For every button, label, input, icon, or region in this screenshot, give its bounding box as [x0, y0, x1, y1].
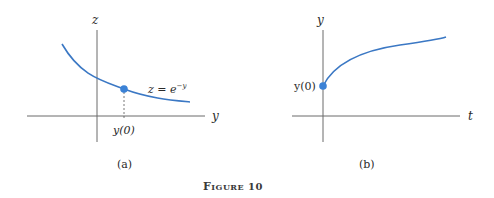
- panel-a-z-axis-label: z: [91, 13, 99, 27]
- panel-a-label: (a): [117, 158, 132, 171]
- panel-b-point-label: y(0): [293, 80, 316, 93]
- figure-canvas: z y z = e−y y(0) (a) y t y(0) (b) FIGURE…: [0, 0, 494, 198]
- panel-a-curve-label: z = e−y: [147, 82, 187, 96]
- panel-b-label: (b): [359, 158, 375, 171]
- panel-b-point: [319, 82, 327, 90]
- panel-b: y t y(0) (b): [292, 13, 473, 171]
- panel-a-point: [120, 85, 128, 93]
- panel-b-t-axis-label: t: [468, 109, 473, 123]
- panel-a: z y z = e−y y(0) (a): [27, 13, 219, 171]
- panel-a-y-axis-label: y: [211, 109, 219, 123]
- panel-b-y-axis-label: y: [316, 13, 324, 27]
- panel-a-point-label: y(0): [112, 124, 135, 137]
- panel-b-curve: [323, 37, 446, 86]
- figure-caption: FIGURE10: [203, 180, 263, 193]
